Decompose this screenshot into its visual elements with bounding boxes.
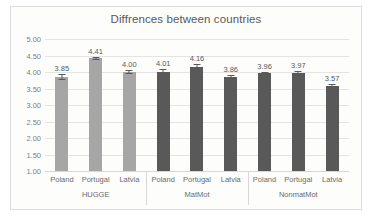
category-label: Latvia (221, 175, 241, 184)
y-axis-tick-label: 4.00 (26, 68, 41, 77)
category-label: Poland (152, 175, 175, 184)
category-label-cell: Poland (248, 172, 282, 205)
bar[interactable]: 3.57 (326, 86, 339, 171)
category-label-cell: Portugal (180, 172, 214, 205)
data-label: 4.00 (122, 60, 137, 69)
category-label: Latvia (119, 175, 139, 184)
error-bar (196, 64, 197, 69)
y-axis-tick-label: 3.00 (26, 101, 41, 110)
category-label-cell: Poland (45, 172, 79, 205)
bar-slot: 3.96 (248, 39, 282, 171)
bar[interactable]: 3.97 (292, 73, 305, 171)
category-label: Poland (253, 175, 276, 184)
data-label: 4.01 (156, 59, 171, 68)
data-label: 3.85 (55, 64, 70, 73)
category-label-cell: Latvia (113, 172, 147, 205)
y-axis-tick-label: 2.50 (26, 117, 41, 126)
category-label-cell: Latvia (214, 172, 248, 205)
category-axis: PolandPortugalLatviaPolandPortugalLatvia… (45, 171, 349, 205)
data-label: 3.86 (223, 65, 238, 74)
bar[interactable]: 3.86 (224, 77, 237, 171)
error-bar (298, 71, 299, 74)
category-label-cell: Portugal (79, 172, 113, 205)
error-bar (332, 84, 333, 88)
error-bar (264, 72, 265, 75)
group-label: MatMot (146, 190, 247, 199)
y-axis-tick-label: 2.00 (26, 134, 41, 143)
bar-slot: 4.01 (146, 39, 180, 171)
data-label: 4.16 (190, 54, 205, 63)
y-axis-tick-label: 1.00 (26, 167, 41, 176)
group-label: NonmatMot (248, 190, 349, 199)
category-label: Portugal (82, 175, 110, 184)
category-label: Portugal (284, 175, 312, 184)
bar[interactable]: 3.96 (258, 73, 271, 171)
plot-area: 5.004.504.003.503.002.502.001.501.003.85… (45, 39, 349, 171)
category-label-cell: Latvia (315, 172, 349, 205)
data-label: 3.96 (257, 62, 272, 71)
data-label: 3.57 (325, 74, 340, 83)
bar[interactable]: 4.41 (89, 58, 102, 171)
bar-slot: 3.97 (281, 39, 315, 171)
bar-slot: 3.57 (315, 39, 349, 171)
bar[interactable]: 3.85 (55, 77, 68, 171)
error-bar (163, 69, 164, 74)
category-label-cell: Portugal (281, 172, 315, 205)
bar-slot: 4.41 (79, 39, 113, 171)
bar-slot: 3.86 (214, 39, 248, 171)
error-bar (129, 70, 130, 74)
y-axis-tick-label: 3.50 (26, 84, 41, 93)
category-label: Poland (50, 175, 73, 184)
bar[interactable]: 4.01 (157, 72, 170, 171)
category-label: Latvia (322, 175, 342, 184)
category-label-cell: Poland (146, 172, 180, 205)
chart-title: Diffrences between countries (11, 13, 361, 25)
error-bar (61, 74, 62, 80)
bar-slot: 4.16 (180, 39, 214, 171)
group-separator (146, 172, 147, 205)
data-label: 3.97 (291, 61, 306, 70)
error-bar (95, 57, 96, 61)
bar[interactable]: 4.16 (190, 67, 203, 171)
category-label: Portugal (183, 175, 211, 184)
bar-slot: 3.85 (45, 39, 79, 171)
group-separator (248, 172, 249, 205)
data-label: 4.41 (88, 47, 103, 56)
y-axis-tick-label: 5.00 (26, 35, 41, 44)
chart-container: Diffrences between countries 5.004.504.0… (10, 6, 362, 210)
y-axis-tick-label: 4.50 (26, 51, 41, 60)
group-label: HUGGE (45, 190, 146, 199)
error-bar (230, 75, 231, 79)
bar[interactable]: 4.00 (123, 72, 136, 171)
y-axis-tick-label: 1.50 (26, 150, 41, 159)
bar-slot: 4.00 (113, 39, 147, 171)
